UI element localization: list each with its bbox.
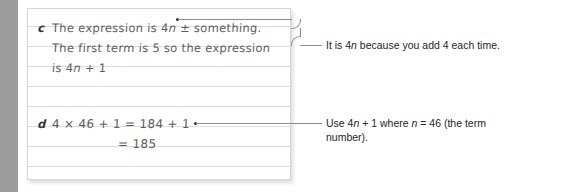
leader-line-top-horizontal — [178, 19, 292, 20]
entry-c-line-3: is 4n + 1 — [52, 61, 107, 75]
leader-line-bottom — [196, 123, 322, 124]
worked-answer-figure: c The expression is 4n ± something. The … — [0, 0, 562, 192]
left-margin-bar — [0, 0, 18, 192]
ruled-line — [28, 86, 290, 87]
entry-c-line-1: The expression is 4n ± something. — [52, 21, 262, 35]
ruled-line — [28, 106, 290, 107]
entry-d-label: d — [38, 117, 47, 131]
entry-c-label: c — [38, 21, 46, 35]
leader-line-top-tail — [300, 45, 322, 46]
ruled-line — [28, 166, 290, 167]
callout-bottom-text: Use 4n + 1 where n = 46 (the term number… — [326, 117, 506, 145]
entry-d-line-1: 4 × 46 + 1 = 184 + 1 — [52, 117, 191, 131]
callout-top-text: It is 4n because you add 4 each time. — [326, 39, 546, 53]
ruled-line — [28, 146, 290, 147]
entry-d-line-2: = 185 — [118, 137, 157, 151]
entry-c-line-2: The first term is 5 so the expression — [52, 41, 271, 55]
